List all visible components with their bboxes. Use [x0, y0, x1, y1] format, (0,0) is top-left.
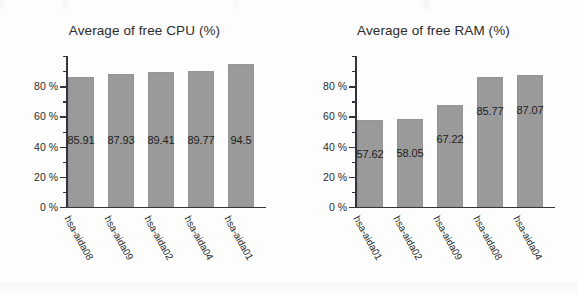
y-axis-tick: [60, 207, 66, 208]
y-axis-minor-tick: [352, 192, 356, 193]
chart-free-ram: Average of free RAM (%) 0 %20 %40 %60 %8…: [289, 0, 578, 295]
y-axis-tick: [349, 116, 355, 117]
y-axis-tick: [60, 147, 66, 148]
x-axis-tick-label: hsa-aida01: [351, 214, 384, 262]
plot-area-free-cpu: 0 %20 %40 %60 %80 %85.91hsa-aida0887.93h…: [66, 56, 266, 208]
x-axis-line: [66, 207, 266, 209]
y-axis-minor-tick: [352, 71, 356, 72]
chart-free-cpu: Average of free CPU (%) 0 %20 %40 %60 %8…: [0, 0, 289, 295]
x-axis-tick-label: hsa-aida01: [222, 214, 255, 262]
y-axis-tick: [60, 177, 66, 178]
bar-value-label: 94.5: [230, 134, 251, 146]
bar: [477, 77, 503, 207]
bar: [397, 119, 423, 207]
bar-value-label: 87.93: [107, 134, 134, 146]
bar-value-label: 58.05: [396, 147, 423, 159]
bar-value-label: 85.91: [67, 134, 94, 146]
y-axis-minor-tick: [63, 101, 67, 102]
bar-value-label: 85.77: [476, 105, 503, 117]
y-axis-tick: [60, 86, 66, 87]
x-axis-tick-label: hsa-aida02: [391, 214, 424, 262]
x-axis-tick-label: hsa-aida04: [511, 214, 544, 262]
x-axis-tick-label: hsa-aida02: [142, 214, 175, 262]
x-axis-tick-label: hsa-aida09: [431, 214, 464, 262]
x-axis-line: [355, 207, 555, 209]
y-axis-tick: [349, 207, 355, 208]
bar-value-label: 87.07: [516, 104, 543, 116]
chart-page: Average of free CPU (%) 0 %20 %40 %60 %8…: [0, 0, 578, 295]
y-axis-tick: [349, 177, 355, 178]
bar-value-label: 89.77: [187, 134, 214, 146]
y-axis-tick-label: 40 %: [323, 141, 347, 153]
y-axis-minor-tick: [63, 132, 67, 133]
y-axis-tick-label: 80 %: [34, 80, 58, 92]
y-axis-tick-label: 60 %: [323, 110, 347, 122]
bar: [357, 120, 383, 207]
y-axis-tick-label: 0 %: [40, 201, 58, 213]
bar-value-label: 89.41: [147, 134, 174, 146]
y-axis-minor-tick: [63, 71, 67, 72]
y-axis-tick: [349, 86, 355, 87]
y-axis-tick: [60, 116, 66, 117]
y-axis-tick-label: 20 %: [323, 171, 347, 183]
y-axis-tick-label: 0 %: [329, 201, 347, 213]
x-axis-tick-label: hsa-aida08: [471, 214, 504, 262]
x-axis-tick-label: hsa-aida04: [182, 214, 215, 262]
y-axis-minor-tick: [352, 132, 356, 133]
y-axis-minor-tick: [63, 192, 67, 193]
y-axis-minor-tick: [63, 162, 67, 163]
y-axis-tick: [349, 147, 355, 148]
chart-title-free-ram: Average of free RAM (%): [289, 23, 578, 38]
bar: [437, 105, 463, 207]
y-axis-minor-tick: [352, 56, 356, 57]
y-axis-minor-tick: [352, 101, 356, 102]
chart-title-free-cpu: Average of free CPU (%): [0, 23, 289, 38]
plot-area-free-ram: 0 %20 %40 %60 %80 %57.62hsa-aida0158.05h…: [355, 56, 555, 208]
x-axis-tick-label: hsa-aida08: [62, 214, 95, 262]
x-axis-tick-label: hsa-aida09: [102, 214, 135, 262]
y-axis-tick-label: 80 %: [323, 80, 347, 92]
bar-value-label: 57.62: [356, 148, 383, 160]
bar: [517, 75, 543, 206]
y-axis-tick-label: 40 %: [34, 141, 58, 153]
y-axis-minor-tick: [63, 56, 67, 57]
bar-value-label: 67.22: [436, 133, 463, 145]
y-axis-tick-label: 60 %: [34, 110, 58, 122]
y-axis-tick-label: 20 %: [34, 171, 58, 183]
y-axis-minor-tick: [352, 162, 356, 163]
